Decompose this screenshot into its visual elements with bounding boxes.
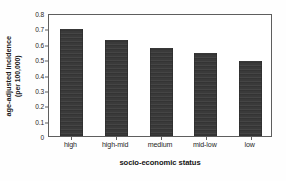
- y-axis-tick-label: 0.6: [26, 41, 44, 48]
- y-axis-title: age-adjusted incidence (per 100,000): [0, 14, 26, 138]
- x-axis-category-label: medium: [148, 141, 173, 149]
- x-axis-category-label: high-mid: [102, 141, 128, 149]
- y-axis-tick-labels: 0.80.70.60.50.40.30.20.10: [26, 10, 44, 141]
- y-axis-title-line1: age-adjusted incidence: [4, 36, 13, 117]
- y-axis-title-line2: (per 100,000): [14, 55, 21, 97]
- bar: [60, 29, 83, 136]
- x-axis-category-labels: highhigh-midmediummid-lowlow: [48, 141, 272, 154]
- x-axis-tick-mark: [161, 136, 162, 140]
- y-axis-tick-label: 0: [26, 134, 44, 141]
- x-axis-category-label: mid-low: [193, 141, 217, 149]
- plot-area: [48, 14, 272, 137]
- y-axis-tick-mark: [45, 122, 49, 123]
- x-axis-tick-mark: [251, 136, 252, 140]
- y-axis-tick-label: 0.1: [26, 118, 44, 125]
- bar: [239, 61, 262, 136]
- bar-series: [49, 15, 271, 136]
- bar-chart-figure: age-adjusted incidence (per 100,000) 0.8…: [0, 0, 286, 181]
- x-axis-tick-mark: [116, 136, 117, 140]
- x-axis-title: socio-economic status: [48, 158, 272, 167]
- y-axis-tick-mark: [45, 30, 49, 31]
- bar: [150, 48, 173, 136]
- x-axis-category-label: high: [64, 141, 77, 149]
- y-axis-tick-label: 0.7: [26, 26, 44, 33]
- bar: [194, 53, 217, 136]
- y-axis-tick-label: 0.5: [26, 57, 44, 64]
- bar: [105, 40, 128, 136]
- y-axis-tick-label: 0.4: [26, 72, 44, 79]
- x-axis-tick-mark: [71, 136, 72, 140]
- y-axis-tick-mark: [45, 107, 49, 108]
- y-axis-tick-mark: [45, 76, 49, 77]
- x-axis-tick-mark: [206, 136, 207, 140]
- y-axis-tick-mark: [45, 91, 49, 92]
- x-axis-category-label: low: [244, 141, 254, 149]
- y-axis-tick-mark: [45, 45, 49, 46]
- y-axis-tick-label: 0.8: [26, 11, 44, 18]
- y-axis-tick-label: 0.2: [26, 103, 44, 110]
- y-axis-tick-mark: [45, 61, 49, 62]
- y-axis-tick-label: 0.3: [26, 87, 44, 94]
